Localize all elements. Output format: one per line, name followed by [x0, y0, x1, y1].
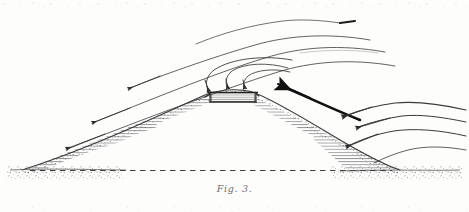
streamline-lee-faint-tail: [300, 50, 378, 53]
figure-caption: Fig. 3.: [0, 183, 469, 194]
ground-base-texture-left: [6, 166, 124, 180]
figure-illustration: [0, 0, 469, 212]
streamline-windward-1-arrow: [342, 107, 372, 117]
streamline-windward-3-arrow: [346, 134, 378, 147]
summit-building: [208, 93, 258, 103]
streamline-eddy-inner: [244, 70, 290, 87]
streamline-windward-1: [345, 102, 466, 116]
streamline-windward-3: [348, 130, 466, 146]
streamline-lee-2-arrow: [92, 108, 130, 123]
ground-base-texture-right: [330, 166, 462, 180]
building-body: [210, 93, 256, 103]
left-slope-soil-texture: [22, 92, 216, 175]
streamline-upper-crest: [196, 20, 340, 44]
streamline-windward-2: [358, 115, 466, 127]
airflow-streamlines: [66, 20, 466, 163]
streamline-upper-crest-tail: [340, 21, 355, 23]
scan-speckle-texture: [0, 0, 469, 212]
streamline-windward-4: [374, 147, 466, 163]
streamline-lee-1-arrow: [128, 76, 160, 89]
streamline-eddy-outer-arrow: [205, 80, 209, 92]
figure-container: Fig. 3.: [0, 0, 469, 212]
streamline-windward-heavy-arrow: [278, 84, 310, 98]
